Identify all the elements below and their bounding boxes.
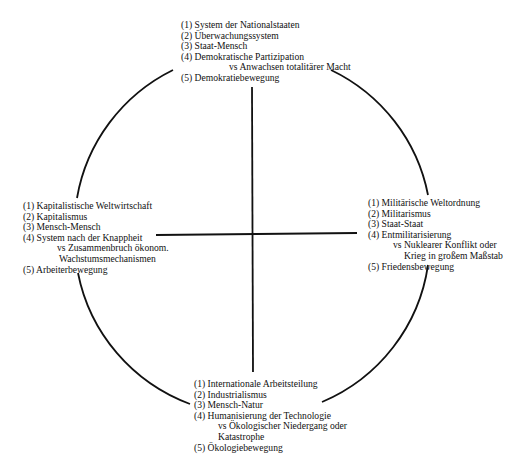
circle-arc-upper-left	[77, 70, 173, 198]
quadrant-top-text: (1) System der Nationalstaaten(2) Überwa…	[181, 20, 351, 84]
quadrant-right-text: (1) Militärische Weltordnung(2) Militari…	[368, 198, 503, 272]
quadrant-left-text: (1) Kapitalistische Weltwirtschaft(2) Ka…	[23, 201, 169, 275]
item-right-1: (1) Militärische Weltordnung	[368, 198, 503, 209]
item-left-5: (5) Arbeiterbewegung	[23, 265, 169, 276]
item-bottom-1: (1) Internationale Arbeitsteilung	[194, 379, 347, 390]
vertical-axis-line	[252, 87, 253, 372]
circle-arc-upper-right	[331, 70, 428, 195]
item-right-4-continuation: Krieg in großem Maßstab	[368, 251, 503, 262]
item-bottom-5: (5) Ökologiebewegung	[194, 443, 347, 454]
item-right-5: (5) Friedensbewegung	[368, 262, 503, 273]
quadrant-bottom-text: (1) Internationale Arbeitsteilung(2) Ind…	[194, 379, 347, 453]
item-left-1: (1) Kapitalistische Weltwirtschaft	[23, 201, 169, 212]
item-top-5: (5) Demokratiebewegung	[181, 73, 351, 84]
item-bottom-4-continuation: Katastrophe	[194, 432, 347, 443]
horizontal-axis-line	[156, 233, 357, 235]
item-left-4-continuation: Wachstumsmechanismen	[23, 254, 169, 265]
item-top-1: (1) System der Nationalstaaten	[181, 20, 351, 31]
item-bottom-4-continuation: vs Ökologischer Niedergang oder	[194, 421, 347, 432]
circle-arc-lower-left	[78, 273, 190, 404]
